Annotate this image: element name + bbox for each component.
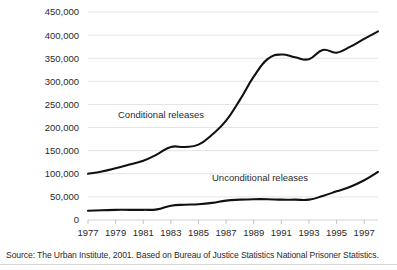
x-tick-label: 1979: [105, 227, 126, 238]
bottom-divider: [0, 264, 397, 265]
tickmarks-group: [88, 220, 364, 224]
x-tick-label: 1977: [77, 227, 98, 238]
series-label-unconditional: Unconditional releases: [212, 172, 308, 183]
x-axis-labels-group: 1977197919811983198519871989199119931995…: [77, 227, 374, 238]
x-tick-label: 1997: [354, 227, 375, 238]
x-tick-label: 1985: [188, 227, 209, 238]
figure: 050,000100,000150,000200,000250,000300,0…: [0, 0, 397, 270]
x-tick-label: 1993: [298, 227, 319, 238]
x-tick-label: 1989: [243, 227, 264, 238]
y-tick-label: 250,000: [45, 99, 79, 110]
y-tick-label: 450,000: [45, 6, 79, 17]
chart-plot-area: 050,000100,000150,000200,000250,000300,0…: [0, 0, 397, 245]
y-tick-label: 400,000: [45, 30, 79, 41]
x-tick-label: 1983: [160, 227, 181, 238]
x-tick-label: 1981: [133, 227, 154, 238]
y-tick-label: 200,000: [45, 122, 79, 133]
x-tick-label: 1987: [216, 227, 237, 238]
y-tick-label: 100,000: [45, 168, 79, 179]
y-tick-label: 0: [74, 214, 79, 225]
x-tick-label: 1995: [326, 227, 347, 238]
series-line-conditional: [88, 31, 378, 173]
y-axis-labels-group: 050,000100,000150,000200,000250,000300,0…: [45, 6, 79, 225]
y-tick-label: 300,000: [45, 76, 79, 87]
x-tick-label: 1991: [271, 227, 292, 238]
source-note: Source: The Urban Institute, 2001. Based…: [6, 250, 391, 261]
line-chart: 050,000100,000150,000200,000250,000300,0…: [0, 0, 397, 245]
y-tick-label: 350,000: [45, 53, 79, 64]
series-label-conditional: Conditional releases: [118, 109, 204, 120]
y-tick-label: 50,000: [50, 191, 79, 202]
y-tick-label: 150,000: [45, 145, 79, 156]
